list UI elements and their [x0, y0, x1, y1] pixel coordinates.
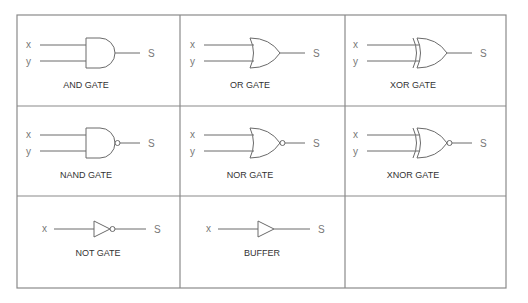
or-body [250, 38, 280, 68]
input-label-x: x [26, 39, 31, 50]
output-label: S [148, 138, 155, 149]
and-gate-cell: xySAND GATE [26, 38, 155, 90]
input-label-x: x [42, 223, 47, 234]
output-label: S [480, 48, 487, 59]
nand-gate-cell: xySNAND GATE [26, 128, 155, 180]
nor-gate-cell: xySNOR GATE [190, 128, 320, 180]
output-label: S [148, 48, 155, 59]
inversion-bubble [447, 141, 452, 146]
gate-name-label: NOT GATE [75, 248, 120, 258]
gate-name-label: NOR GATE [227, 170, 273, 180]
input-label-x: x [206, 223, 211, 234]
input-label-y: y [190, 56, 195, 67]
nor-gate-symbol [204, 128, 305, 158]
or-gate-cell: xySOR GATE [190, 38, 320, 90]
or-gate-symbol [204, 38, 305, 68]
and-body [86, 38, 115, 68]
gate-name-label: OR GATE [230, 80, 270, 90]
and-body [86, 128, 115, 158]
or-body [250, 128, 280, 158]
xnor-gate-symbol [367, 128, 472, 158]
gates-layer: xySAND GATExySOR GATExySXOR GATExySNAND … [26, 38, 487, 258]
input-label-x: x [190, 39, 195, 50]
triangle-body [258, 221, 274, 237]
nand-gate-symbol [40, 128, 140, 158]
input-label-y: y [190, 146, 195, 157]
input-label-x: x [353, 39, 358, 50]
input-label-y: y [353, 56, 358, 67]
output-label: S [154, 224, 161, 235]
xor-curve [413, 38, 417, 68]
input-label-y: y [353, 146, 358, 157]
gate-name-label: BUFFER [244, 248, 281, 258]
output-label: S [480, 138, 487, 149]
not-gate-symbol [54, 221, 146, 237]
inversion-bubble [110, 227, 115, 232]
xor-gate-cell: xySXOR GATE [353, 38, 487, 90]
output-label: S [313, 138, 320, 149]
input-label-y: y [26, 56, 31, 67]
output-label: S [318, 224, 325, 235]
triangle-body [94, 221, 110, 237]
or-body [417, 38, 447, 68]
input-label-x: x [26, 129, 31, 140]
xor-curve [413, 128, 417, 158]
not-gate-cell: xSNOT GATE [42, 221, 161, 258]
gate-name-label: XOR GATE [390, 80, 436, 90]
output-label: S [313, 48, 320, 59]
xor-gate-symbol [367, 38, 472, 68]
or-body [417, 128, 447, 158]
gate-name-label: AND GATE [63, 80, 108, 90]
inversion-bubble [280, 141, 285, 146]
input-label-x: x [190, 129, 195, 140]
gate-name-label: XNOR GATE [387, 170, 439, 180]
input-label-y: y [26, 146, 31, 157]
xnor-gate-cell: xySXNOR GATE [353, 128, 487, 180]
logic-gates-diagram: xySAND GATExySOR GATExySXOR GATExySNAND … [0, 0, 528, 303]
gate-name-label: NAND GATE [60, 170, 112, 180]
and-gate-symbol [40, 38, 140, 68]
input-label-x: x [353, 129, 358, 140]
buffer-gate-cell: xSBUFFER [206, 221, 325, 258]
buffer-gate-symbol [218, 221, 310, 237]
inversion-bubble [115, 141, 120, 146]
